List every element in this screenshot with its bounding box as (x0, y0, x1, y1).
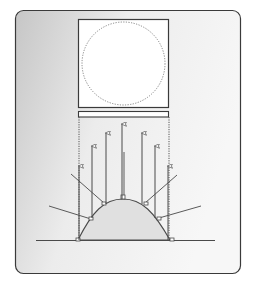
reflection-point-icon (157, 217, 161, 220)
target-circle (82, 22, 165, 105)
reflection-point-icon (102, 202, 106, 205)
reflection-point-icon (144, 202, 148, 205)
reflector-diagram (0, 0, 255, 285)
reflection-point-icon (170, 238, 174, 241)
slit-bar (79, 112, 169, 118)
diagram-canvas (0, 0, 255, 285)
target-screen (79, 20, 169, 108)
